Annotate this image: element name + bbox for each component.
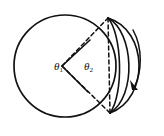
geometry-figure: θ1 θ2 [0, 0, 164, 136]
angle-label-theta2: θ2 [84, 61, 93, 72]
angle-label-theta1: θ1 [54, 61, 63, 72]
theta2-subscript: 2 [89, 66, 93, 74]
dashed-chord [108, 18, 110, 113]
rotation-arc-2 [108, 18, 129, 113]
figure-canvas [0, 0, 164, 136]
main-circle [14, 15, 116, 117]
theta1-subscript: 1 [59, 66, 63, 74]
